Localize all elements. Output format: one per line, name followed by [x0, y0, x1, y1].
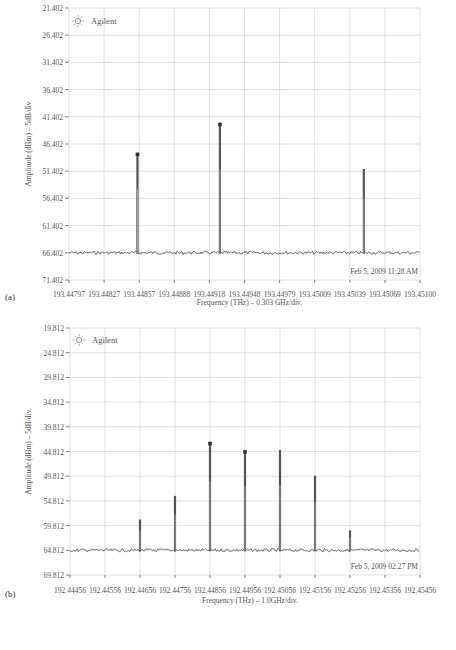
y-tick-label: 44.812: [43, 448, 64, 457]
x-axis-label: Frequency (THz) – 1.0GHz/div.: [202, 596, 298, 605]
x-tick-label: 192.44756: [159, 586, 191, 595]
peak-marker: [243, 450, 247, 454]
timestamp: Feb 5, 2009 02:27 PM: [351, 562, 419, 571]
y-tick-label: 31.402: [42, 58, 63, 67]
y-tick-label: 51.402: [42, 167, 63, 176]
x-tick-label: 192.45356: [369, 586, 401, 595]
spectrum-panel-a: 21.40226.40231.40236.40241.40246.40251.4…: [0, 0, 456, 320]
y-tick-label: 49.812: [43, 472, 64, 481]
x-tick-label: 193.44827: [88, 290, 120, 299]
spectrum-plot-b: 19.81224.81229.81234.81239.81244.81249.8…: [0, 325, 456, 650]
x-tick-label: 193.45039: [334, 290, 366, 299]
peak-marker: [208, 442, 212, 446]
x-tick-label: 192.45256: [334, 586, 366, 595]
x-tick-label: 193.44797: [53, 290, 85, 299]
y-tick-label: 21.402: [42, 4, 63, 13]
y-tick-label: 64.812: [43, 546, 64, 555]
x-tick-label: 192.45456: [404, 586, 436, 595]
y-tick-label: 29.812: [43, 373, 64, 382]
y-tick-label: 19.812: [43, 325, 64, 333]
y-tick-label: 39.812: [43, 423, 64, 432]
grid: 21.40226.40231.40236.40241.40246.40251.4…: [42, 4, 436, 299]
y-tick-label: 71.402: [42, 276, 63, 285]
peak-marker: [136, 153, 140, 157]
y-tick-label: 36.402: [42, 86, 63, 95]
agilent-logo: Agilent: [73, 334, 118, 346]
x-tick-label: 192.45156: [299, 586, 331, 595]
y-tick-label: 56.402: [42, 194, 63, 203]
x-tick-label: 192.44456: [54, 586, 86, 595]
y-tick-label: 69.812: [43, 571, 64, 580]
x-tick-label: 192.44656: [124, 586, 156, 595]
y-axis-label: Amplitude (dBm) – 5dB/div: [24, 101, 33, 186]
y-tick-label: 46.402: [42, 140, 63, 149]
spectral-peak: [208, 442, 212, 552]
x-tick-label: 193.44857: [123, 290, 155, 299]
agilent-logo: Agilent: [72, 15, 117, 27]
peak-marker: [218, 123, 222, 127]
grid: 19.81224.81229.81234.81239.81244.81249.8…: [43, 325, 436, 595]
x-tick-label: 192.45056: [264, 586, 296, 595]
y-tick-label: 24.812: [43, 349, 64, 358]
x-tick-label: 192.44956: [229, 586, 261, 595]
x-tick-label: 193.45009: [299, 290, 331, 299]
timestamp: Feb 5, 2009 11:28 AM: [350, 267, 418, 276]
y-tick-label: 59.812: [43, 522, 64, 531]
panel-label: (a): [5, 292, 15, 302]
y-axis-label: Amplitude (dBm) – 5dB/div.: [24, 408, 33, 495]
panel-label: (b): [5, 589, 16, 599]
brand-label: Agilent: [92, 335, 118, 345]
spectral-peak: [136, 153, 140, 254]
y-tick-label: 26.402: [42, 31, 63, 40]
brand-label: Agilent: [91, 16, 117, 26]
y-tick-label: 66.402: [42, 249, 63, 258]
spectral-peak: [218, 123, 222, 254]
x-tick-label: 192.44856: [194, 586, 226, 595]
y-tick-label: 41.402: [42, 113, 63, 122]
x-tick-label: 192.44556: [89, 586, 121, 595]
y-tick-label: 61.402: [42, 222, 63, 231]
y-tick-label: 54.812: [43, 497, 64, 506]
x-axis-label: Frequency (THz) – 0.303 GHz/div.: [197, 298, 302, 307]
x-tick-label: 193.45100: [404, 290, 436, 299]
x-tick-label: 193.45069: [369, 290, 401, 299]
x-tick-label: 193.44888: [158, 290, 190, 299]
y-tick-label: 34.812: [43, 398, 64, 407]
spectrum-panel-b: 19.81224.81229.81234.81239.81244.81249.8…: [0, 325, 456, 650]
spectrum-plot-a: 21.40226.40231.40236.40241.40246.40251.4…: [0, 0, 456, 320]
